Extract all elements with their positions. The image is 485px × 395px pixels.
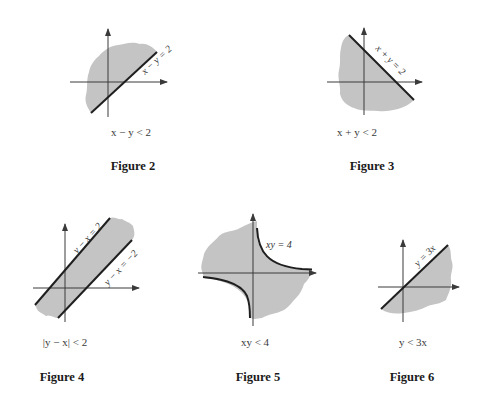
figure-3-title: Figure 3	[350, 159, 395, 174]
figure-3-caption: x + y < 2	[337, 126, 377, 138]
figure-3-graph: x + y = 2	[327, 28, 422, 115]
figure-6-title: Figure 6	[390, 370, 435, 385]
figure-2-title: Figure 2	[111, 159, 156, 174]
figure-2-graph: x − y = 2	[70, 29, 174, 117]
figure-6-caption: y < 3x	[399, 336, 427, 348]
figure-5-boundary-label: xy = 4	[265, 239, 292, 250]
figure-2-shaded-region	[85, 43, 157, 113]
figure-6-graph: y = 3x	[378, 240, 459, 322]
figure-4-graph: y − x = 2 y − x = −2	[33, 217, 140, 322]
figure-2-caption: x − y < 2	[111, 126, 151, 138]
figure-5-graph: xy = 4	[198, 214, 316, 326]
figure-4-title: Figure 4	[40, 370, 85, 385]
figure-5-caption: xy < 4	[241, 336, 269, 348]
figure-4-caption: |y − x| < 2	[43, 336, 87, 348]
figure-5-shaded-region	[201, 221, 312, 319]
figure-5-title: Figure 5	[236, 370, 281, 385]
